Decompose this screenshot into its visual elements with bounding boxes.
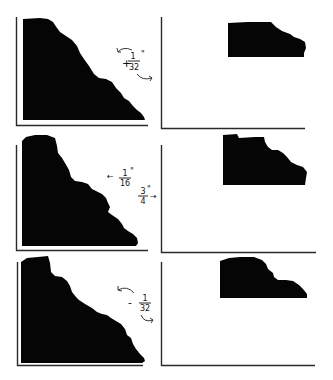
fraction-denominator: 32 (140, 304, 150, 313)
inch-mark: " (141, 50, 145, 59)
curved-arrow-left-icon (118, 286, 134, 293)
panel-2-cut-profile (223, 134, 307, 185)
curved-arrow-right-icon (137, 74, 152, 81)
fraction-numerator-1-16: 1 (122, 169, 127, 178)
panel-1-cut-profile (228, 22, 306, 57)
panel-3-full-profile (21, 256, 145, 363)
panel-3-cut-profile (220, 257, 307, 298)
panel-2-annotations: ← 1 16 " 3 4 " → (107, 167, 157, 206)
curved-arrow-right-icon (141, 315, 153, 323)
fraction-numerator: 1 (142, 294, 147, 303)
fraction-numerator-3-4: 3 (140, 187, 145, 196)
panel-1-annotation: + 1 32 " (117, 48, 152, 81)
sign-minus: - (128, 296, 132, 309)
fraction-denominator: 32 (129, 63, 139, 72)
fraction-denominator-3-4: 4 (140, 197, 145, 206)
panel-3: - 1 32 (18, 256, 316, 366)
panel-3-annotation: - 1 32 (118, 286, 153, 323)
inch-mark-1-16: " (130, 167, 134, 176)
fraction-numerator: 1 (130, 52, 135, 61)
left-arrow-icon: ← (107, 172, 114, 181)
panel-1: + 1 32 " (17, 17, 307, 129)
right-arrow-icon: → (150, 192, 157, 201)
molding-profiles-diagram: + 1 32 " ← 1 16 " 3 4 " → (0, 0, 333, 380)
fraction-denominator-1-16: 16 (120, 179, 130, 188)
panel-2: ← 1 16 " 3 4 " → (17, 134, 317, 253)
panel-2-full-profile (22, 135, 138, 246)
